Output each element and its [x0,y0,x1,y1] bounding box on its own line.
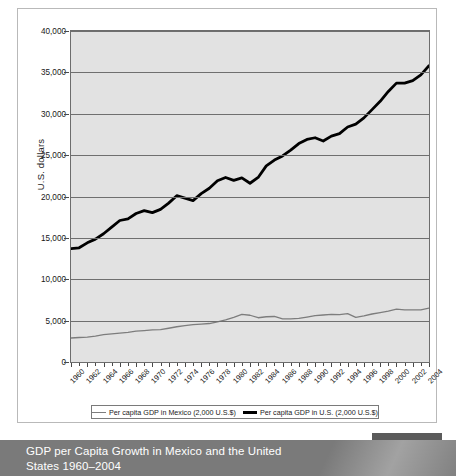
x-axis-tick-mark [79,363,80,366]
x-axis-tick-mark [291,363,292,366]
x-axis-tick-mark [274,363,275,366]
x-axis-tick-mark [323,363,324,366]
gridline [71,114,429,115]
series-line [71,308,429,338]
y-axis-tick-label: 15,000 [22,233,66,242]
chart-region: U.S. dollars 05,00010,00015,00020,00025,… [18,9,438,424]
legend-item-us: Per capita GDP in U.S. (2,000 U.S.$) [243,408,378,417]
x-axis-tick-mark [258,363,259,366]
y-axis-tick-mark [64,72,69,73]
legend-label-mexico: Per capita GDP in Mexico (2,000 U.S.$) [109,408,236,417]
x-axis-tick-mark [226,363,227,366]
y-axis-tick-label: 25,000 [22,151,66,160]
y-axis-tick-mark [64,238,69,239]
chart-legend: Per capita GDP in Mexico (2,000 U.S.$) P… [91,405,379,419]
y-axis-tick-mark [64,362,69,363]
y-axis-tick-label: 10,000 [22,275,66,284]
x-axis-tick-mark [128,363,129,366]
y-axis-tick-label: 0 [22,358,66,367]
y-axis-tick-mark [64,155,69,156]
gridline [71,321,429,322]
legend-label-us: Per capita GDP in U.S. (2,000 U.S.$) [260,408,378,417]
x-axis-tick-mark [209,363,210,366]
x-axis-tick-mark [356,363,357,366]
x-axis-tick-mark [372,363,373,366]
x-axis-label-group: 1960196219641966196819701972197419761978… [70,367,442,407]
legend-swatch-mexico-icon [92,412,106,413]
legend-item-mexico: Per capita GDP in Mexico (2,000 U.S.$) [92,408,236,417]
figure-caption-text: GDP per Capita Growth in Mexico and the … [26,444,306,473]
y-axis-tick-mark [64,31,69,32]
x-axis-tick-mark [242,363,243,366]
x-axis-tick-mark [193,363,194,366]
y-axis-tick-group: 05,00010,00015,00020,00025,00030,00035,0… [18,30,66,363]
x-axis-tick-mark [161,363,162,366]
gridline [71,155,429,156]
x-axis-tick-mark [177,363,178,366]
x-axis-tick-mark [421,363,422,366]
y-axis-tick-label: 5,000 [22,316,66,325]
x-axis-tick-mark [405,363,406,366]
caption-sheen-decoration [300,440,456,476]
gridline [71,238,429,239]
x-axis-tick-mark [388,363,389,366]
series-line [71,66,429,249]
gridline [71,279,429,280]
y-axis-tick-mark [64,321,69,322]
x-axis-tick-mark [112,363,113,366]
legend-swatch-us-icon [243,411,257,414]
y-axis-tick-label: 40,000 [22,27,66,36]
y-axis-tick-label: 30,000 [22,109,66,118]
x-axis-tick-mark [307,363,308,366]
x-axis-tick-mark [340,363,341,366]
figure-caption-band: GDP per Capita Growth in Mexico and the … [0,440,456,476]
x-axis-tick-mark [95,363,96,366]
y-axis-tick-label: 20,000 [22,192,66,201]
figure-badge-bar [372,433,442,440]
gridline [71,31,429,32]
gridline [71,197,429,198]
plot-area [70,30,430,363]
gridline [71,72,429,73]
y-axis-tick-label: 35,000 [22,68,66,77]
y-axis-tick-mark [64,114,69,115]
y-axis-tick-mark [64,279,69,280]
y-axis-tick-mark [64,197,69,198]
x-axis-tick-mark [144,363,145,366]
figure-card: U.S. dollars 05,00010,00015,00020,00025,… [17,8,437,423]
